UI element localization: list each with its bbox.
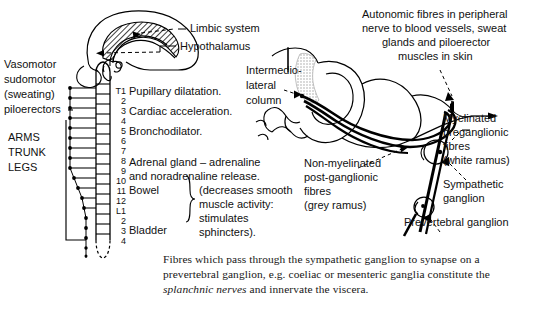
- spinal-level-L4: 4: [104, 236, 126, 246]
- label-myelinated-line3: fibres: [443, 140, 470, 152]
- function-bowel: Bowel: [129, 184, 159, 196]
- label-autonomic-line4: muscles in skin: [398, 50, 473, 62]
- label-myelinated-line1: Myelinated: [443, 112, 496, 124]
- viscera-brace: [186, 176, 195, 222]
- spinal-level-T3: 3: [104, 106, 126, 116]
- label-autonomic-line2: nerve to blood vessels, sweat: [362, 22, 506, 34]
- function-cardiac: Cardiac acceleration.: [129, 105, 232, 117]
- function-broncho: Bronchodilator.: [129, 125, 202, 137]
- spinal-level-T9: 9: [104, 166, 126, 176]
- label-arms: ARMS: [8, 131, 40, 143]
- function-adrenal-2: and noradrenaline release.: [129, 170, 260, 182]
- caption-italic: splanchnic nerves: [163, 283, 247, 295]
- label-intermediolateral-line3: column: [246, 94, 281, 106]
- label-limbic-system: Limbic system: [190, 22, 260, 34]
- spinal-level-T8: 8: [104, 156, 126, 166]
- label-sudomotor: sudomotor: [4, 73, 56, 85]
- function-adrenal-1: Adrenal gland – adrenaline: [129, 156, 261, 168]
- label-legs: LEGS: [8, 161, 37, 173]
- label-autonomic-line3: glands and piloerector: [382, 36, 490, 48]
- function-pupillary: Pupillary dilatation.: [129, 85, 221, 97]
- spinal-level-T5: 5: [104, 126, 126, 136]
- spinal-level-L2: 2: [104, 216, 126, 226]
- label-intermediolateral-line1: Intermedio-: [246, 64, 302, 76]
- label-piloerectors: piloerectors: [4, 103, 61, 115]
- label-sweating: (sweating): [4, 88, 55, 100]
- figure-caption: Fibres which pass through the sympatheti…: [163, 252, 525, 296]
- label-autonomic-line1: Autonomic fibres in peripheral: [362, 8, 508, 20]
- spinal-level-T11: 11: [104, 186, 126, 196]
- spinal-level-T7: 7: [104, 146, 126, 156]
- caption-part2: and innervate the viscera.: [247, 283, 369, 295]
- label-vasomotor: Vasomotor: [4, 58, 56, 70]
- label-prevertebral-ganglion: Prevertebral ganglion: [404, 216, 509, 228]
- label-sympathetic-ganglion-line2: ganglion: [443, 192, 485, 204]
- spinal-level-T12: 12: [104, 196, 126, 206]
- spinal-level-T2: 2: [104, 96, 126, 106]
- label-nonmyelinated-line1: Non-myelinated: [304, 157, 381, 169]
- spinal-level-L1: L1: [104, 206, 126, 216]
- spinal-level-T10: 10: [104, 176, 126, 186]
- label-intermediolateral-line2: lateral: [246, 79, 276, 91]
- label-nonmyelinated-line2: post-ganglionic: [304, 171, 378, 183]
- label-nonmyelinated-line3: fibres: [304, 185, 331, 197]
- spinal-level-L3: 3: [104, 226, 126, 236]
- spinal-level-T6: 6: [104, 136, 126, 146]
- spinal-level-T4: 4: [104, 116, 126, 126]
- brace-note-line4: sphincters).: [199, 226, 256, 238]
- label-nonmyelinated-line4: (grey ramus): [304, 199, 366, 211]
- function-bladder: Bladder: [129, 224, 167, 236]
- figure-canvas: Limbic system Hypothalamus Vasomotor sud…: [0, 0, 536, 311]
- label-trunk: TRUNK: [8, 146, 46, 158]
- spinal-level-T1: T1: [104, 86, 126, 96]
- label-myelinated-line2: preganglionic: [443, 126, 508, 138]
- brace-note-line3: stimulates: [199, 212, 249, 224]
- caption-part1: Fibres which pass through the sympatheti…: [163, 253, 490, 280]
- label-sympathetic-ganglion-line1: Sympathetic: [443, 178, 504, 190]
- label-myelinated-line4: (white ramus): [443, 154, 510, 166]
- brace-note-line2: muscle activity:: [199, 198, 274, 210]
- brace-note-line1: (decreases smooth: [199, 184, 293, 196]
- label-hypothalamus: Hypothalamus: [180, 40, 250, 52]
